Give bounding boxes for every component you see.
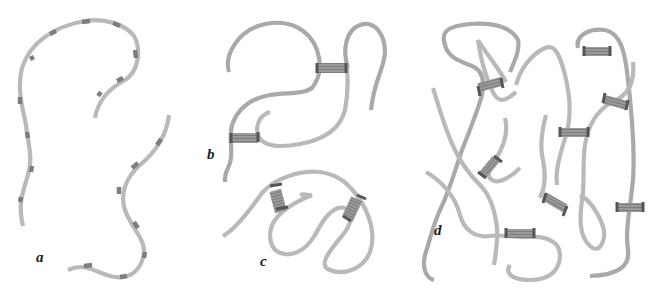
polymer-crosslink-figure: a b c <box>0 0 671 297</box>
segment-marker <box>120 276 127 277</box>
crosslink-end <box>276 207 288 209</box>
polymer-chain-b3 <box>257 68 347 146</box>
crosslink-bridge <box>230 133 258 143</box>
panel-b: b <box>207 23 385 182</box>
segment-marker <box>98 92 101 96</box>
crosslink-end <box>626 100 628 110</box>
segment-marker <box>31 166 32 172</box>
panel-label-b: b <box>207 146 215 162</box>
segment-marker <box>20 197 21 202</box>
crosslink-bridge <box>560 128 588 137</box>
segment-marker <box>135 50 136 58</box>
panel-c: c <box>223 172 372 272</box>
polymer-chain-a2 <box>68 115 169 277</box>
crosslink-end <box>270 184 282 186</box>
crosslink-end <box>501 78 503 88</box>
crosslink-bridge <box>506 229 534 238</box>
segment-marker <box>84 265 92 266</box>
segment-marker <box>82 21 90 22</box>
polymer-chain-d1 <box>424 24 518 280</box>
polymer-chain-b1 <box>225 23 320 182</box>
segment-marker <box>113 23 120 26</box>
crosslink-end <box>478 86 480 96</box>
segment-marker <box>31 56 33 60</box>
panel-label-d: d <box>434 222 442 238</box>
crosslink-end <box>603 93 605 103</box>
crosslink-bridge <box>317 63 346 73</box>
panel-label-a: a <box>36 249 44 265</box>
polymer-chain-b2 <box>345 24 385 110</box>
segment-marker <box>117 78 123 81</box>
polymer-chain-c2 <box>300 194 312 195</box>
segment-marker <box>27 132 28 138</box>
crosslink-bridge <box>584 47 610 56</box>
polymer-chain-d4 <box>580 62 633 249</box>
segment-marker <box>50 31 56 34</box>
polymer-chain-d10 <box>489 118 520 181</box>
panel-d: d <box>424 24 643 280</box>
polymer-chain-a1 <box>20 20 138 226</box>
polymer-chain-d9 <box>540 115 546 198</box>
crosslink-bridge <box>617 203 643 212</box>
panel-label-c: c <box>260 253 267 269</box>
segment-marker <box>144 252 145 258</box>
panel-a: a <box>20 20 169 277</box>
